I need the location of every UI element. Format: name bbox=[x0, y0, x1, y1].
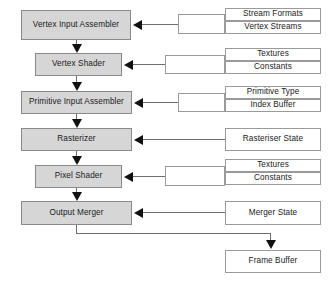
bracket-primitive-input-resources bbox=[178, 93, 225, 112]
feed-line-rasterizer bbox=[143, 139, 225, 140]
stage-label: Vertex Shader bbox=[52, 60, 105, 69]
feed-line-vertex-input-assembler bbox=[142, 24, 179, 25]
stage-label: Primitive Input Assembler bbox=[29, 98, 124, 107]
stage-rasterizer[interactable]: Rasterizer bbox=[21, 128, 132, 151]
resource-label: Rasteriser State bbox=[243, 135, 303, 144]
feed-line-output-merger bbox=[143, 212, 225, 213]
feed-line-pixel-shader bbox=[133, 176, 166, 177]
stage-primitive-input-assembler[interactable]: Primitive Input Assembler bbox=[21, 91, 132, 114]
bracket-pixel-shader-resources bbox=[165, 166, 225, 186]
resource-index-buffer[interactable]: Index Buffer bbox=[225, 99, 321, 112]
stage-label: Rasterizer bbox=[57, 135, 95, 144]
resource-label: Textures bbox=[257, 50, 289, 59]
resource-label: Frame Buffer bbox=[249, 257, 298, 266]
stage-vertex-shader[interactable]: Vertex Shader bbox=[35, 53, 122, 76]
feed-line-primitive-input-assembler bbox=[143, 102, 179, 103]
feed-arrow-to-primitive-input-assembler bbox=[134, 98, 143, 108]
resource-label: Merger State bbox=[249, 209, 298, 218]
resource-constants-vertex-shader[interactable]: Constants bbox=[225, 61, 321, 74]
resource-label: Primitive Type bbox=[247, 88, 300, 97]
stage-label: Pixel Shader bbox=[55, 172, 103, 181]
resource-merger-state[interactable]: Merger State bbox=[225, 201, 321, 225]
feed-arrow-to-pixel-shader bbox=[124, 172, 133, 182]
resource-vertex-streams[interactable]: Vertex Streams bbox=[225, 21, 321, 34]
stage-label: Output Merger bbox=[49, 209, 103, 218]
resource-label: Constants bbox=[254, 63, 292, 72]
stage-label: Vertex Input Assembler bbox=[33, 21, 119, 30]
feed-arrow-to-rasterizer bbox=[134, 135, 143, 145]
resource-frame-buffer[interactable]: Frame Buffer bbox=[225, 250, 321, 273]
feed-line-vertex-shader bbox=[133, 64, 166, 65]
bracket-vertex-input-resources bbox=[178, 14, 225, 34]
resource-stream-formats[interactable]: Stream Formats bbox=[225, 8, 321, 21]
resource-label: Vertex Streams bbox=[244, 23, 301, 32]
flow-arrow-vs-to-pia bbox=[72, 82, 82, 91]
output-line-horizontal bbox=[76, 233, 270, 234]
resource-textures-vertex-shader[interactable]: Textures bbox=[225, 48, 321, 61]
resource-rasteriser-state[interactable]: Rasteriser State bbox=[225, 128, 321, 151]
resource-label: Stream Formats bbox=[243, 10, 303, 19]
resource-label: Textures bbox=[257, 161, 289, 170]
resource-label: Constants bbox=[254, 174, 292, 183]
stage-vertex-input-assembler[interactable]: Vertex Input Assembler bbox=[21, 10, 131, 40]
bracket-vertex-shader-resources bbox=[165, 55, 225, 74]
feed-arrow-to-vertex-input-assembler bbox=[133, 20, 142, 30]
resource-primitive-type[interactable]: Primitive Type bbox=[225, 86, 321, 99]
flow-arrow-pia-to-rast bbox=[72, 119, 82, 128]
feed-arrow-to-output-merger bbox=[134, 208, 143, 218]
feed-arrow-to-vertex-shader bbox=[124, 60, 133, 70]
stage-output-merger[interactable]: Output Merger bbox=[21, 201, 132, 225]
stage-pixel-shader[interactable]: Pixel Shader bbox=[35, 165, 122, 188]
flow-arrow-ia-to-vs bbox=[72, 44, 82, 53]
resource-constants-pixel-shader[interactable]: Constants bbox=[225, 172, 321, 185]
output-arrow-to-frame-buffer bbox=[266, 240, 276, 249]
flow-arrow-rast-to-ps bbox=[72, 156, 82, 165]
pipeline-diagram: Vertex Input Assembler Vertex Shader Pri… bbox=[0, 0, 330, 290]
resource-label: Index Buffer bbox=[250, 101, 295, 110]
resource-textures-pixel-shader[interactable]: Textures bbox=[225, 159, 321, 172]
flow-arrow-ps-to-om bbox=[72, 192, 82, 201]
